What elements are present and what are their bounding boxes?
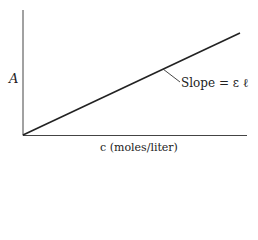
x-axis-label: c (moles/liter): [100, 141, 178, 154]
annotation-leader: [163, 69, 180, 82]
y-axis-label: A: [9, 71, 18, 86]
slope-annotation: Slope = ε ℓ: [181, 76, 249, 91]
